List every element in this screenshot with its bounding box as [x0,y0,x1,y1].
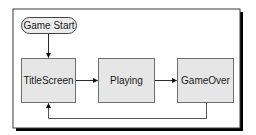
node-playing: Playing [99,59,155,103]
node-title-screen-label: TitleScreen [23,75,73,86]
node-game-start-label: Game Start [23,20,74,31]
node-title-screen: TitleScreen [22,59,76,103]
node-game-over: GameOver [178,59,234,103]
node-playing-label: Playing [110,75,143,86]
node-game-over-label: GameOver [181,75,231,86]
node-game-start: Game Start [22,18,77,34]
state-diagram: Game Start TitleScreen Playing GameOver [0,0,256,135]
